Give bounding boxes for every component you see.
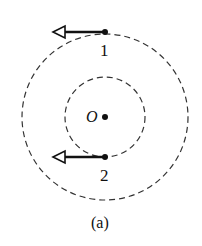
center-label: O	[86, 108, 98, 125]
point-1-label: 1	[100, 41, 109, 60]
orbit-diagram: O 1 2 (a)	[0, 0, 202, 246]
figure-caption: (a)	[91, 214, 109, 232]
center-point	[102, 114, 108, 120]
point-2-velocity-arrow	[53, 151, 104, 163]
point-2	[102, 154, 108, 160]
point-1	[102, 29, 108, 35]
point-1-velocity-arrow	[53, 26, 104, 38]
point-2-label: 2	[100, 166, 109, 185]
